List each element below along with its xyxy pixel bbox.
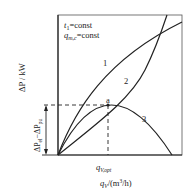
- condition-2: qm,c=const: [64, 30, 100, 41]
- curve-3: [58, 105, 172, 155]
- arrow-up-icon: [44, 105, 48, 111]
- diagram: t1=const qm,c=const 1 2 3 a ΔP / kW ΔPel…: [0, 0, 191, 196]
- curve-1-label: 1: [103, 58, 107, 68]
- x-axis-label: qV/(m3/h): [100, 178, 132, 189]
- arrow-down-icon: [44, 149, 48, 155]
- y-axis-label: ΔP / kW: [17, 63, 27, 92]
- point-a-label: a: [106, 95, 110, 105]
- curve-2-label: 2: [124, 76, 128, 86]
- curve-1: [58, 22, 182, 155]
- x-opt-label: qV,opt: [96, 162, 112, 173]
- bracket-label: ΔPel−ΔPpu: [33, 119, 43, 152]
- curve-3-label: 3: [142, 114, 146, 124]
